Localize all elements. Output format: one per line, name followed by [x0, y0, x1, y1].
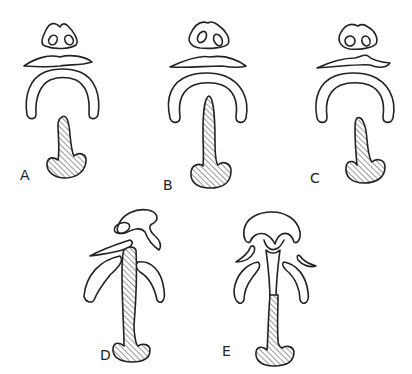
- panel-label-a: A: [20, 167, 30, 183]
- panel-b: B: [163, 22, 247, 193]
- tongue-septum: [47, 116, 86, 178]
- palatal-shelf-left: [84, 256, 122, 302]
- palatal-shelf-left: [234, 262, 260, 303]
- palate-development-diagram: A B C D: [0, 0, 412, 374]
- panel-label-c: C: [310, 170, 320, 186]
- panel-d: D: [84, 210, 164, 363]
- panel-label-e: E: [222, 343, 231, 359]
- panel-c: C: [310, 24, 394, 186]
- panel-a: A: [20, 24, 99, 183]
- tongue-septum: [346, 118, 385, 183]
- lateral-process-left: [236, 246, 255, 262]
- nasal-region: [244, 212, 300, 244]
- nasal-region: [339, 24, 377, 49]
- lateral-process-right: [297, 255, 316, 266]
- nasal-region: [189, 22, 229, 48]
- lip-fold: [24, 56, 92, 67]
- palatal-shelf-right: [136, 262, 164, 303]
- palatal-shelf-right: [283, 262, 309, 303]
- panel-label-b: B: [163, 177, 173, 193]
- tongue-septum: [191, 96, 231, 188]
- nasal-region: [42, 24, 77, 49]
- septum-upper: [266, 250, 280, 300]
- palatal-arch: [316, 73, 394, 122]
- panel-e: E: [222, 212, 316, 366]
- lip-fold: [317, 55, 390, 68]
- lip-fold: [170, 56, 246, 67]
- nasal-septum: [256, 295, 294, 366]
- palatal-arch: [26, 69, 99, 119]
- panel-label-d: D: [100, 347, 111, 363]
